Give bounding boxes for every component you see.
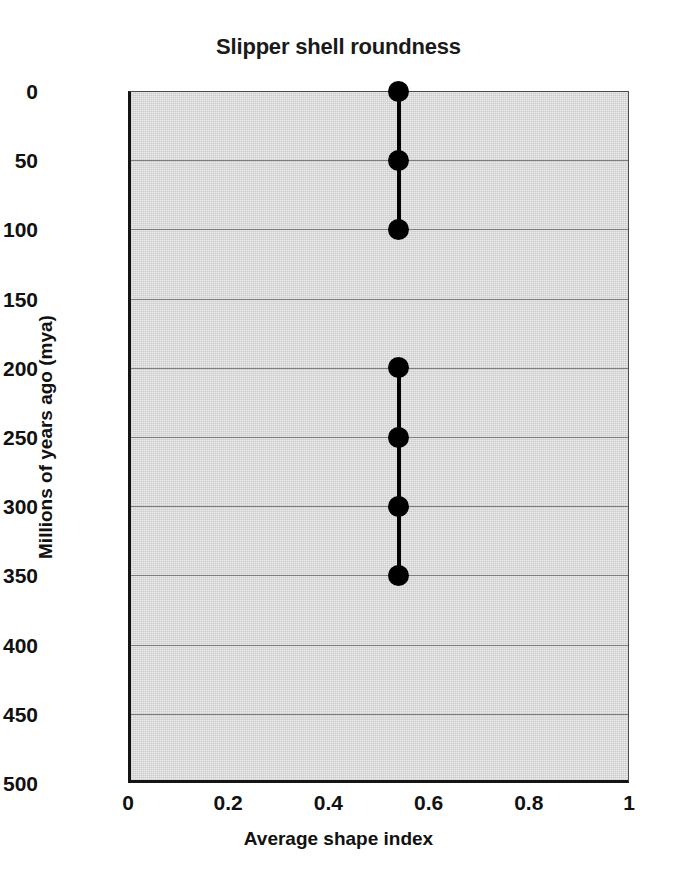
x-tick-label: 0.8: [484, 792, 574, 813]
x-tick-label: 0.6: [384, 792, 474, 813]
data-point-marker[interactable]: [388, 81, 409, 102]
data-point-marker[interactable]: [388, 565, 409, 586]
gridline: [128, 506, 629, 507]
gridline: [128, 368, 629, 369]
x-tick-label: 0: [83, 792, 173, 813]
gridline: [128, 229, 629, 230]
x-tick-label: 1: [584, 792, 674, 813]
data-point-marker[interactable]: [388, 427, 409, 448]
gridline: [128, 714, 629, 715]
gridline: [128, 575, 629, 576]
series-connector-line: [397, 368, 401, 576]
chart-title: Slipper shell roundness: [0, 34, 677, 60]
chart-figure: Slipper shell roundness 0501001502002503…: [0, 0, 677, 888]
data-point-marker[interactable]: [388, 150, 409, 171]
gridline: [128, 160, 629, 161]
y-axis-title: Millions of years ago (mya): [26, 91, 66, 783]
data-point-marker[interactable]: [388, 496, 409, 517]
x-tick-label: 0.4: [283, 792, 373, 813]
x-axis-title: Average shape index: [0, 828, 677, 850]
gridline: [128, 645, 629, 646]
gridline: [128, 299, 629, 300]
gridline: [128, 437, 629, 438]
data-point-marker[interactable]: [388, 219, 409, 240]
x-tick-label: 0.2: [183, 792, 273, 813]
